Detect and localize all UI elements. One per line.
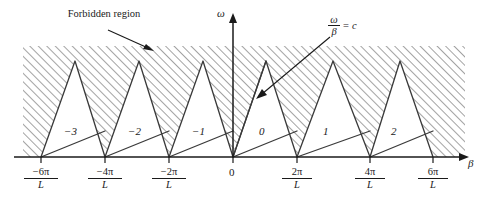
tick-numerator: 2π (282, 166, 312, 177)
tick-denominator: L (88, 179, 122, 190)
tick-denominator: L (418, 179, 448, 190)
space-harmonic-label--1: −1 (192, 126, 205, 138)
tick-label--2pi-L: −2π L (152, 166, 186, 190)
tick-numerator: −4π (88, 166, 122, 177)
space-harmonic-label--2: −2 (128, 126, 141, 138)
brillouin-diagram: Forbidden region ω β ω β = c −6π L −4π L… (0, 0, 489, 198)
x-axis-ticks (41, 157, 433, 163)
forbidden-region-label: Forbidden region (62, 8, 146, 19)
tick-denominator: L (24, 179, 58, 190)
equals-sign: = (343, 20, 349, 31)
beta-axis-label: β (468, 158, 473, 170)
light-line-equation: ω β = c (328, 14, 357, 37)
light-speed-symbol: c (352, 20, 357, 31)
tick-numerator: −6π (24, 166, 58, 177)
tick-numerator: 6π (418, 166, 448, 177)
tick-numerator: −2π (152, 166, 186, 177)
tick-label-4pi-L: 4π L (355, 166, 385, 190)
diagram-canvas (0, 0, 489, 198)
tick-label--4pi-L: −4π L (88, 166, 122, 190)
space-harmonic-label-0: 0 (259, 126, 265, 138)
space-harmonic-label-2: 2 (391, 126, 397, 138)
omega-axis-label: ω (217, 8, 225, 20)
tick-denominator: L (152, 179, 186, 190)
tick-denominator: L (282, 179, 312, 190)
tick-label-2pi-L: 2π L (282, 166, 312, 190)
space-harmonic-label-1: 1 (323, 126, 329, 138)
tick-numerator: 4π (355, 166, 385, 177)
forbidden-region-hatching (23, 46, 465, 157)
light-line-denominator: β (328, 26, 340, 37)
light-line-numerator: ω (328, 14, 340, 25)
tick-label-0: 0 (229, 167, 235, 179)
tick-label-6pi-L: 6π L (418, 166, 448, 190)
space-harmonic-label--3: −3 (64, 126, 77, 138)
tick-label--6pi-L: −6π L (24, 166, 58, 190)
tick-denominator: L (355, 179, 385, 190)
